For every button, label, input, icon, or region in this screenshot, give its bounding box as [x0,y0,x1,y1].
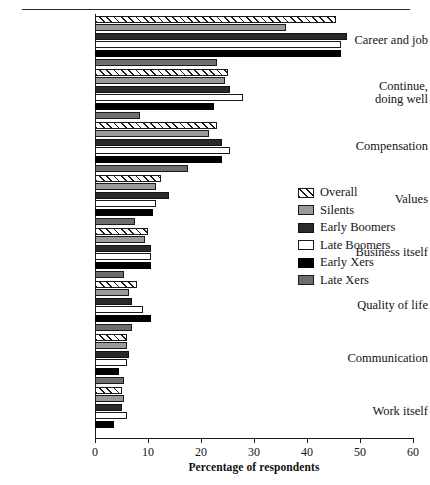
bar-early-xers [95,368,119,375]
bar-late-xers [95,112,140,119]
bar-early-boomers [95,351,129,358]
legend-label: Late Boomers [320,238,390,253]
bar-early-boomers [95,33,347,40]
legend-label: Early Xers [320,255,374,270]
category-label: Continue,doing well [334,80,428,107]
x-tick [360,438,361,443]
x-tick-label: 40 [290,445,324,460]
x-tick-label: 50 [343,445,377,460]
bar-overall [95,387,122,394]
x-tick-label: 30 [237,445,271,460]
bar-late-boomers [95,359,127,366]
legend-item: Late Xers [298,272,395,290]
x-tick-label: 60 [396,445,430,460]
x-tick [307,438,308,443]
bar-late-boomers [95,253,151,260]
bar-silents [95,395,124,402]
x-tick [413,438,414,443]
legend-item: Early Xers [298,254,395,272]
x-tick [201,438,202,443]
category-label: Career and job [334,34,428,48]
x-tick [95,438,96,443]
category-label: Communication [334,352,428,366]
bar-silents [95,236,145,243]
bar-overall [95,228,148,235]
bar-late-xers [95,218,135,225]
bar-early-xers [95,50,341,57]
bar-silents [95,130,209,137]
legend-swatch-late-boomers [298,240,314,250]
x-tick-label: 0 [78,445,112,460]
bar-late-xers [95,165,188,172]
bar-early-xers [95,103,214,110]
bar-late-boomers [95,200,156,207]
bar-early-xers [95,315,151,322]
x-tick-label: 20 [184,445,218,460]
bar-early-xers [95,421,114,428]
bar-overall [95,16,336,23]
x-tick-label: 10 [131,445,165,460]
legend-label: Overall [320,185,357,200]
x-axis-title: Percentage of respondents [95,461,413,473]
x-tick [254,438,255,443]
legend-item: Overall [298,184,395,202]
bar-silents [95,183,156,190]
legend-item: Early Boomers [298,219,395,237]
category-label: Compensation [334,140,428,154]
bar-late-xers [95,59,217,66]
bar-overall [95,69,228,76]
bar-late-xers [95,324,132,331]
bar-late-boomers [95,412,127,419]
bar-overall [95,175,161,182]
legend-swatch-silents [298,205,314,215]
legend-label: Silents [320,203,354,218]
legend-item: Silents [298,202,395,220]
bar-early-xers [95,262,151,269]
bar-early-boomers [95,404,122,411]
bar-overall [95,281,137,288]
bar-late-xers [95,377,124,384]
bar-early-xers [95,209,153,216]
bar-silents [95,342,127,349]
x-tick [148,438,149,443]
bar-late-boomers [95,41,341,48]
bar-early-boomers [95,298,132,305]
bar-late-boomers [95,306,143,313]
chart-legend: OverallSilentsEarly BoomersLate BoomersE… [298,184,395,289]
legend-label: Late Xers [320,273,369,288]
legend-swatch-early-xers [298,258,314,268]
legend-item: Late Boomers [298,237,395,255]
legend-label: Early Boomers [320,220,395,235]
bar-silents [95,77,225,84]
legend-swatch-early-boomers [298,223,314,233]
bar-late-boomers [95,94,243,101]
bar-late-boomers [95,147,230,154]
bar-silents [95,289,129,296]
bar-early-boomers [95,192,169,199]
category-label: Quality of life [334,299,428,313]
bar-early-boomers [95,245,151,252]
top-divider-rule [22,9,410,10]
bar-overall [95,122,217,129]
bar-overall [95,334,127,341]
bar-early-xers [95,156,222,163]
bar-early-boomers [95,139,222,146]
bar-late-xers [95,271,124,278]
category-label: Work itself [334,405,428,419]
legend-swatch-late-xers [298,275,314,285]
bar-silents [95,24,286,31]
legend-swatch-overall [298,188,314,198]
bar-early-boomers [95,86,230,93]
